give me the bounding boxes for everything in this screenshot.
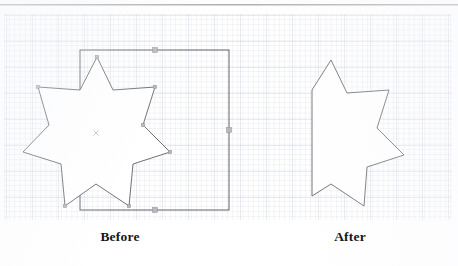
star-node-right[interactable] — [168, 150, 171, 153]
selection-handle-top[interactable] — [153, 48, 158, 53]
caption-after: After — [270, 229, 430, 245]
selection-handle-right[interactable] — [227, 128, 232, 133]
star-shape[interactable] — [23, 57, 170, 206]
star-node-upper-right[interactable] — [153, 85, 156, 88]
star-node-upper-left[interactable] — [36, 85, 39, 88]
star-node-top[interactable] — [95, 55, 98, 58]
panel-before — [23, 48, 232, 213]
star-node-lower-right[interactable] — [127, 204, 130, 207]
figure-page: Before After — [0, 0, 458, 266]
selection-handle-bottom[interactable] — [153, 208, 158, 213]
clipped-star-shape[interactable] — [312, 60, 404, 206]
shape-layer — [0, 0, 458, 266]
caption-before: Before — [0, 229, 240, 245]
panel-after — [312, 60, 404, 206]
star-node-mid-right[interactable] — [141, 123, 144, 126]
star-node-lower-left[interactable] — [63, 204, 66, 207]
